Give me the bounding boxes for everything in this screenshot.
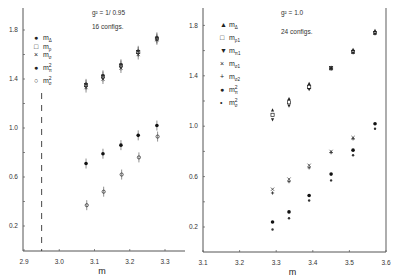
x-tick-label: 3.3 bbox=[160, 258, 169, 265]
legend-marker-icon: ▼ bbox=[220, 47, 227, 54]
legend: ▲mΔ□mρ1▼mπ1×mσ1+mσ2●m2π•m2σ bbox=[220, 21, 241, 108]
y-tick-label: 1.0 bbox=[9, 124, 18, 131]
x-tick-label: 3.4 bbox=[308, 259, 317, 266]
x-tick-label: 3.2 bbox=[125, 258, 134, 265]
x-axis-title: m bbox=[98, 266, 106, 276]
x-tick-label: 3.6 bbox=[381, 259, 390, 266]
coupling-annotation: g² = 1/ 0.95 bbox=[92, 9, 125, 17]
y-tick-label: 0.6 bbox=[189, 173, 198, 180]
y-tick-label: 1.0 bbox=[189, 122, 198, 129]
legend-marker-icon: • bbox=[220, 99, 223, 106]
legend-marker-icon: ▲ bbox=[220, 21, 227, 28]
legend-marker-icon: □ bbox=[34, 43, 39, 50]
x-tick-label: 3.1 bbox=[90, 258, 99, 265]
legend-label: mσ1 bbox=[229, 60, 241, 69]
data-points bbox=[84, 32, 159, 210]
y-tick-label: 0.2 bbox=[9, 222, 18, 229]
x-tick-label: 2.9 bbox=[19, 258, 28, 265]
legend-label: m2π bbox=[43, 62, 52, 73]
x-tick-label: 3.2 bbox=[235, 259, 244, 266]
legend-label: mΔ bbox=[229, 21, 238, 30]
x-tick-label: 3.0 bbox=[55, 258, 64, 265]
legend-label: mΔ bbox=[43, 34, 52, 43]
legend-marker-icon: ● bbox=[34, 34, 38, 41]
configs-annotation: 16 configs. bbox=[92, 23, 124, 31]
legend-marker-icon: ● bbox=[220, 86, 224, 93]
left-panel: 0.20.61.01.41.82.93.03.13.23.3mg² = 1/ 0… bbox=[9, 8, 185, 276]
legend-label: mπ1 bbox=[229, 47, 241, 56]
legend-label: m2π bbox=[229, 84, 238, 95]
legend-marker-icon: ○ bbox=[34, 77, 38, 84]
right-panel: 0.20.61.01.41.83.13.23.33.43.53.6mg² = 1… bbox=[189, 8, 391, 277]
legend: ●mΔ□mρ×mσ●m2π○m2σ bbox=[34, 34, 52, 86]
legend-marker-icon: □ bbox=[220, 34, 225, 41]
x-tick-label: 3.5 bbox=[345, 259, 354, 266]
x-tick-label: 3.3 bbox=[272, 259, 281, 266]
legend-label: mρ1 bbox=[229, 34, 240, 43]
y-tick-label: 1.8 bbox=[189, 22, 198, 29]
y-tick-label: 1.8 bbox=[9, 26, 18, 33]
x-tick-label: 3.1 bbox=[198, 259, 207, 266]
figure: 0.20.61.01.41.82.93.03.13.23.3mg² = 1/ 0… bbox=[0, 0, 394, 280]
legend-label: mσ bbox=[43, 51, 52, 60]
legend-label: mσ2 bbox=[229, 73, 241, 82]
y-tick-label: 1.4 bbox=[9, 75, 18, 82]
legend-marker-icon: + bbox=[220, 73, 224, 80]
y-tick-label: 0.6 bbox=[9, 173, 18, 180]
y-tick-label: 1.4 bbox=[189, 72, 198, 79]
legend-marker-icon: ● bbox=[34, 64, 38, 71]
x-axis-title: m bbox=[289, 267, 297, 277]
legend-marker-icon: × bbox=[220, 60, 224, 67]
y-tick-label: 0.2 bbox=[189, 223, 198, 230]
configs-annotation: 24 configs. bbox=[281, 28, 313, 36]
coupling-annotation: g² = 1.0 bbox=[281, 9, 304, 17]
legend-marker-icon: × bbox=[34, 51, 38, 58]
legend-label: m2σ bbox=[43, 75, 52, 86]
data-points bbox=[271, 29, 377, 231]
legend-label: m2σ bbox=[229, 97, 238, 108]
